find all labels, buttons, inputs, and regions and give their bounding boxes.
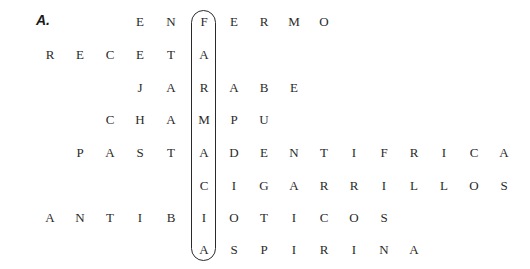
puzzle-letter: R [314, 178, 334, 194]
puzzle-letter: C [100, 47, 120, 63]
puzzle-letter: S [494, 178, 514, 194]
puzzle-letter: T [100, 210, 120, 226]
puzzle-letter: R [254, 14, 274, 30]
puzzle-letter: D [224, 145, 244, 161]
puzzle-letter: C [314, 210, 334, 226]
puzzle-letter: E [70, 47, 90, 63]
puzzle-letter: E [224, 14, 244, 30]
puzzle-letter: I [130, 210, 150, 226]
puzzle-letter: N [70, 210, 90, 226]
puzzle-letter: N [161, 14, 181, 30]
exercise-label: A. [36, 12, 50, 28]
puzzle-letter: S [374, 210, 394, 226]
puzzle-letter: E [130, 47, 150, 63]
puzzle-letter: A [494, 145, 514, 161]
puzzle-letter: A [404, 242, 424, 258]
puzzle-letter: P [70, 145, 90, 161]
puzzle-letter: R [314, 242, 334, 258]
puzzle-letter: O [224, 210, 244, 226]
puzzle-letter: C [100, 112, 120, 128]
puzzle-letter: P [224, 112, 244, 128]
puzzle-letter: E [130, 14, 150, 30]
puzzle-letter: O [344, 210, 364, 226]
puzzle-letter: S [224, 242, 244, 258]
puzzle-letter: M [284, 14, 304, 30]
key-letter: A [194, 47, 214, 63]
puzzle-letter: A [161, 112, 181, 128]
puzzle-letter: S [130, 145, 150, 161]
key-letter: F [194, 14, 214, 30]
puzzle-letter: C [464, 145, 484, 161]
puzzle-letter: A [40, 210, 60, 226]
puzzle-letter: L [434, 178, 454, 194]
puzzle-letter: A [224, 80, 244, 96]
puzzle-letter: E [284, 80, 304, 96]
puzzle-letter: I [284, 242, 304, 258]
puzzle-letter: I [344, 145, 364, 161]
puzzle-letter: A [161, 80, 181, 96]
puzzle-letter: T [314, 145, 334, 161]
puzzle-letter: I [284, 210, 304, 226]
puzzle-letter: I [344, 242, 364, 258]
key-letter: C [194, 178, 214, 194]
puzzle-letter: B [254, 80, 274, 96]
puzzle-letter: A [100, 145, 120, 161]
key-letter: A [194, 242, 214, 258]
key-letter: M [194, 112, 214, 128]
puzzle-letter: B [161, 210, 181, 226]
puzzle-letter: E [254, 145, 274, 161]
puzzle-letter: N [284, 145, 304, 161]
puzzle-letter: J [130, 80, 150, 96]
puzzle-letter: R [404, 145, 424, 161]
puzzle-letter: T [161, 47, 181, 63]
puzzle-letter: G [254, 178, 274, 194]
puzzle-letter: N [374, 242, 394, 258]
puzzle-letter: R [344, 178, 364, 194]
puzzle-letter: I [224, 178, 244, 194]
puzzle-letter: O [464, 178, 484, 194]
puzzle-letter: L [404, 178, 424, 194]
key-letter: A [194, 145, 214, 161]
puzzle-letter: I [434, 145, 454, 161]
puzzle-letter: A [284, 178, 304, 194]
puzzle-letter: R [40, 47, 60, 63]
puzzle-letter: I [374, 178, 394, 194]
key-letter: R [194, 80, 214, 96]
puzzle-letter: O [314, 14, 334, 30]
puzzle-letter: H [130, 112, 150, 128]
puzzle-letter: T [254, 210, 274, 226]
puzzle-letter: T [161, 145, 181, 161]
puzzle-letter: F [374, 145, 394, 161]
key-letter: I [194, 210, 214, 226]
puzzle-letter: P [254, 242, 274, 258]
puzzle-letter: U [254, 112, 274, 128]
